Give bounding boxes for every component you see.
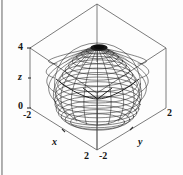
z-axis-label: z [18, 72, 22, 82]
sphere-meridians [46, 47, 149, 125]
y-tick-label-near: -2 [99, 151, 107, 161]
figure-3d-sphere-plot: 4 z 0 -2 x 2 -2 y 2 [0, 0, 183, 175]
y-tick-label-far: 2 [167, 108, 172, 118]
y-axis-label: y [138, 137, 142, 147]
z-tick-label-top: 4 [18, 42, 23, 52]
sphere-north-pole [91, 44, 108, 50]
x-tick-label-far: -2 [23, 110, 31, 120]
plot-canvas [0, 0, 183, 175]
x-tick-label-near: 2 [84, 151, 89, 161]
x-axis-label: x [52, 137, 57, 147]
sphere-wireframe [46, 43, 149, 130]
